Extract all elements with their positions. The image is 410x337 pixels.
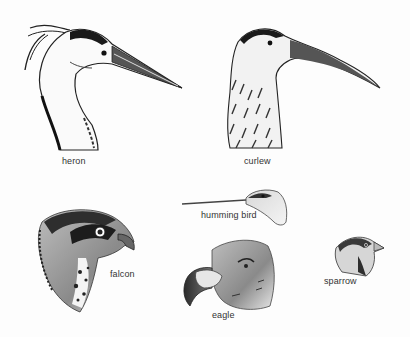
sparrow-drawing — [335, 237, 384, 276]
heron-label: heron — [62, 156, 86, 166]
bird-heads-illustration: heron curlew humming bird falcon sparrow… — [0, 0, 410, 337]
sparrow-label: sparrow — [324, 276, 357, 286]
curlew-label: curlew — [244, 156, 271, 166]
bird-drawings — [0, 0, 410, 337]
eagle-drawing — [184, 240, 274, 309]
falcon-label: falcon — [110, 269, 135, 279]
heron-drawing — [25, 25, 182, 150]
humming-bird-label: humming bird — [201, 210, 257, 220]
curlew-drawing — [228, 29, 380, 148]
eagle-label: eagle — [212, 310, 235, 320]
falcon-drawing — [38, 210, 134, 312]
